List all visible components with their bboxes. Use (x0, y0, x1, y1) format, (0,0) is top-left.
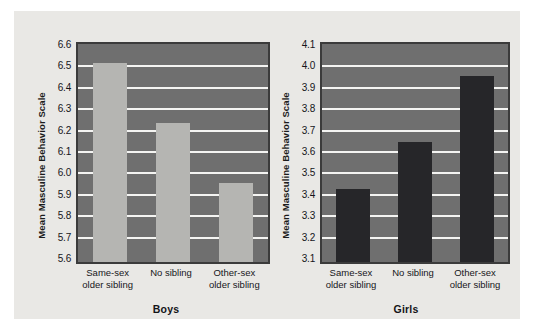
gridline (322, 65, 508, 67)
x-category-label: Other-sex older sibling (203, 267, 266, 290)
y-tick-label: 3.3 (302, 210, 315, 221)
y-tick-label: 3.6 (302, 146, 315, 157)
figure-card: Mean Masculine Behavior Scale 6.66.56.46… (14, 11, 520, 319)
y-tick-label: 3.4 (302, 188, 315, 199)
bar (219, 183, 253, 262)
y-tick-label: 6.1 (58, 146, 71, 157)
plot-area-girls (320, 42, 510, 264)
plot-area-boys (76, 42, 270, 264)
bar (398, 142, 431, 262)
chart-panel-boys: Mean Masculine Behavior Scale 6.66.56.46… (32, 11, 274, 319)
y-tick-label: 4.1 (302, 39, 315, 50)
y-tick-label: 5.6 (58, 253, 71, 264)
y-tick-label: 4.0 (302, 60, 315, 71)
x-axis-category-labels-boys: Same-sex older siblingNo siblingOther-se… (76, 267, 270, 301)
y-tick-label: 6.5 (58, 60, 71, 71)
x-category-label: Same-sex older sibling (76, 267, 139, 290)
x-category-label: No sibling (382, 267, 444, 279)
panel-title-girls: Girls (276, 303, 516, 315)
y-tick-label: 5.8 (58, 210, 71, 221)
y-tick-label: 6.2 (58, 124, 71, 135)
y-tick-label: 6.3 (58, 103, 71, 114)
y-tick-label: 6.4 (58, 81, 71, 92)
y-axis-tick-labels-girls: 4.14.03.93.83.73.63.53.43.33.23.1 (292, 42, 318, 264)
y-axis-tick-labels-boys: 6.66.56.46.36.26.16.05.95.85.75.6 (48, 42, 74, 264)
y-tick-label: 3.2 (302, 231, 315, 242)
panel-title-boys: Boys (32, 303, 274, 315)
y-tick-label: 3.1 (302, 253, 315, 264)
bar (93, 63, 127, 262)
x-category-label: Same-sex older sibling (320, 267, 382, 290)
y-tick-label: 3.8 (302, 103, 315, 114)
y-tick-label: 3.9 (302, 81, 315, 92)
x-category-label: No sibling (139, 267, 202, 279)
x-category-label: Other-sex older sibling (444, 267, 506, 290)
chart-panel-girls: Mean Masculine Behavior Scale 4.14.03.93… (276, 11, 516, 319)
y-tick-label: 5.7 (58, 231, 71, 242)
y-tick-label: 3.5 (302, 167, 315, 178)
bar (156, 123, 190, 262)
y-tick-label: 6.0 (58, 167, 71, 178)
y-tick-label: 5.9 (58, 188, 71, 199)
y-tick-label: 3.7 (302, 124, 315, 135)
y-tick-label: 6.6 (58, 39, 71, 50)
bar (460, 76, 493, 262)
x-axis-category-labels-girls: Same-sex older siblingNo siblingOther-se… (320, 267, 510, 301)
bar (336, 189, 369, 262)
